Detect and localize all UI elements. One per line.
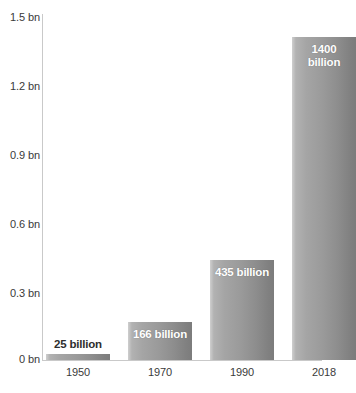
- y-tick-1200: 1.2 bn: [0, 81, 40, 92]
- x-tick-1990: 1990: [210, 366, 274, 379]
- bar-label-1970: 166 billion: [128, 328, 192, 341]
- x-tick-1950: 1950: [46, 366, 110, 379]
- bar-slot-1970: 166 billion: [128, 14, 192, 360]
- y-tick-600: 0.6 bn: [0, 219, 40, 230]
- bar-label-1950: 25 billion: [46, 338, 110, 351]
- y-tick-label: 0.6 bn: [2, 219, 40, 230]
- bar-1950[interactable]: [46, 354, 110, 360]
- bar-label-2018: 1400billion: [292, 43, 356, 69]
- bar-slot-2018: 1400billion: [292, 14, 356, 360]
- x-tick-2018: 2018: [292, 366, 356, 379]
- y-tick-0: 0 bn: [0, 354, 40, 365]
- bar-slot-1990: 435 billion: [210, 14, 274, 360]
- bar-1970[interactable]: 166 billion: [128, 322, 192, 360]
- bar-slot-1950: 25 billion: [46, 14, 110, 360]
- x-tick-1970: 1970: [128, 366, 192, 379]
- y-tick-300: 0.3 bn: [0, 288, 40, 299]
- bar-2018[interactable]: 1400billion: [292, 37, 356, 360]
- y-tick-label: 0.3 bn: [2, 288, 40, 299]
- y-tick-900: 0.9 bn: [0, 150, 40, 161]
- y-tick-label: 0 bn: [2, 354, 40, 365]
- bar-1990[interactable]: 435 billion: [210, 260, 274, 360]
- bar-label-1990: 435 billion: [210, 266, 274, 279]
- y-tick-label: 1.5 bn: [2, 12, 40, 23]
- y-tick-1500: 1.5 bn: [0, 12, 40, 23]
- x-axis-line: [42, 360, 322, 361]
- y-tick-label: 0.9 bn: [2, 150, 40, 161]
- y-tick-label: 1.2 bn: [2, 81, 40, 92]
- plot-area: 25 billion 166 billion 435 billion 1400b…: [43, 14, 322, 360]
